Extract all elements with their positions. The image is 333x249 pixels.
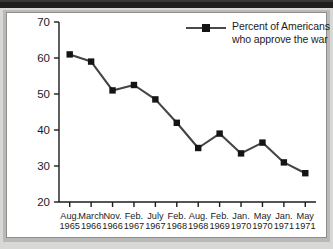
x-axis-tick-month: July (147, 211, 164, 221)
data-point-marker (259, 139, 265, 145)
x-axis-tick-month: May (254, 211, 272, 221)
y-axis-tick-label: 70 (37, 16, 50, 28)
x-axis-tick-year: 1966 (81, 221, 101, 231)
x-axis-tick-year: 1971 (295, 221, 315, 231)
top-band-highlight (0, 0, 333, 2)
y-axis-tick-label: 30 (37, 160, 50, 172)
x-axis-tick-year: 1970 (231, 221, 251, 231)
data-point-marker (238, 150, 244, 156)
data-point-marker (152, 96, 158, 102)
legend-square-marker (202, 24, 210, 32)
x-axis-tick-month: Aug. (189, 211, 208, 221)
x-axis-tick-month: Feb. (125, 211, 143, 221)
x-axis-tick-month: Jan. (232, 211, 249, 221)
y-axis-tick-label: 20 (37, 196, 50, 208)
y-axis-tick-label: 60 (37, 52, 50, 64)
x-axis-tick-month: Aug. (60, 211, 79, 221)
top-decorative-band (0, 0, 333, 8)
data-point-marker (109, 87, 115, 93)
data-point-marker (174, 120, 180, 126)
x-axis-tick-month: March (78, 211, 104, 221)
line-chart: 203040506070Aug.1965March1966Nov.1966Feb… (6, 12, 327, 238)
legend-label-line-1: Percent of Americans (232, 20, 330, 32)
x-axis-tick-year: 1967 (145, 221, 165, 231)
x-axis-tick-year: 1967 (124, 221, 144, 231)
x-axis-tick-year: 1968 (167, 221, 187, 231)
data-point-marker (67, 51, 73, 57)
chart-page: 203040506070Aug.1965March1966Nov.1966Feb… (0, 0, 333, 249)
x-axis-tick-month: Jan. (275, 211, 292, 221)
data-point-marker (88, 58, 94, 64)
x-axis-tick-year: 1969 (209, 221, 229, 231)
data-point-marker (131, 82, 137, 88)
data-point-marker (281, 159, 287, 165)
x-axis-tick-year: 1970 (252, 221, 272, 231)
x-axis-tick-year: 1965 (59, 221, 79, 231)
legend-marker-swatch (186, 22, 226, 34)
x-axis-tick-year: 1966 (102, 221, 122, 231)
data-point-marker (216, 130, 222, 136)
x-axis-tick-month: Nov. (103, 211, 121, 221)
series-line (70, 54, 306, 173)
chart-legend: Percent of Americans who approve the war (186, 20, 330, 45)
y-axis-tick-label: 40 (37, 124, 50, 136)
data-point-marker (302, 170, 308, 176)
x-axis-tick-year: 1968 (188, 221, 208, 231)
x-axis-tick-year: 1971 (274, 221, 294, 231)
x-axis-tick-month: May (297, 211, 315, 221)
data-point-marker (195, 145, 201, 151)
x-axis-tick-month: Feb. (168, 211, 186, 221)
x-axis-tick-month: Feb. (210, 211, 228, 221)
chart-svg: 203040506070Aug.1965March1966Nov.1966Feb… (6, 12, 327, 238)
legend-label-line-2: who approve the war (232, 33, 328, 45)
y-axis-tick-label: 50 (37, 88, 50, 100)
legend-label: Percent of Americans who approve the war (232, 20, 330, 45)
